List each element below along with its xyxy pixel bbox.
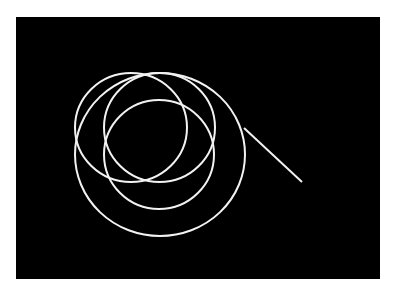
drawing-canvas [0,0,398,297]
black-panel [16,17,380,279]
